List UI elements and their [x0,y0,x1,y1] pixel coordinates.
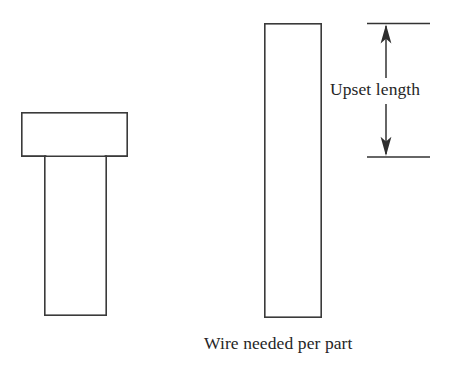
diagram-canvas: Upset length Wire needed per part [0,0,462,366]
finished-part-figure [21,113,128,315]
wire-needed-caption: Wire needed per part [204,333,353,353]
upset-forging-diagram [0,0,462,366]
upset-length-label: Upset length [330,79,420,99]
wire-stock-figure [265,24,321,317]
wire-stock-rectangle [265,24,321,317]
part-head-rectangle [22,113,127,156]
part-shank-rectangle [45,156,106,315]
